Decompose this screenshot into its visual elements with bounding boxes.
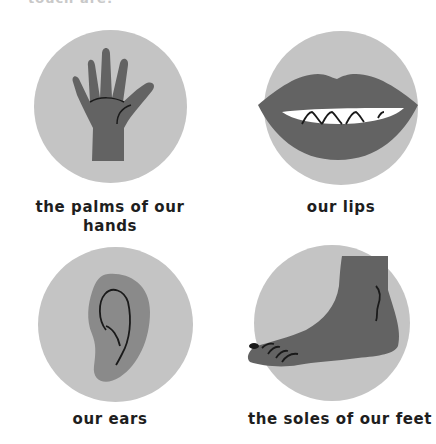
hand-icon [0, 0, 218, 220]
tile-ears: our ears [0, 220, 218, 444]
caption-ears: our ears [20, 410, 200, 429]
caption-line-1: our ears [20, 410, 200, 429]
caption-line-1: the soles of our feet [240, 410, 436, 429]
caption-feet: the soles of our feet [240, 410, 436, 429]
lips-icon [218, 0, 436, 220]
caption-lips: our lips [258, 198, 424, 217]
caption-line-1: our lips [258, 198, 424, 217]
caption-line-1: the palms of our [20, 198, 200, 217]
tile-lips: our lips [218, 0, 436, 220]
tile-feet: the soles of our feet [218, 220, 436, 444]
tile-palms: the palms of our hands [0, 0, 218, 220]
